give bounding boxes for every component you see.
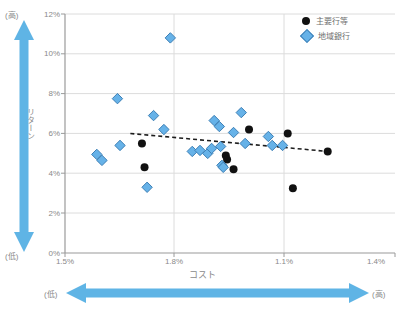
- data-point-circle: [141, 163, 149, 171]
- data-point-circle: [289, 184, 297, 192]
- data-point-circle: [245, 126, 253, 134]
- data-point-diamond: [240, 138, 250, 148]
- plot-area: [0, 0, 405, 309]
- data-point-diamond: [277, 140, 287, 150]
- data-point-diamond: [142, 182, 152, 192]
- data-point-diamond: [148, 110, 158, 120]
- data-point-circle: [230, 165, 238, 173]
- horizontal-direction-arrow: [66, 283, 369, 303]
- trendline: [130, 134, 327, 152]
- vertical-direction-arrow: [14, 20, 34, 252]
- x-axis-ticks: [65, 253, 395, 257]
- scatter-chart: (高) (低) (低) (高) リターン コスト 12% 10% 8% 6% 4…: [0, 0, 405, 309]
- data-point-diamond: [115, 140, 125, 150]
- data-point-circle: [324, 147, 332, 155]
- data-point-diamond: [236, 107, 246, 117]
- trendline-path: [130, 134, 327, 152]
- data-point-circle: [284, 130, 292, 138]
- data-point-diamond: [112, 93, 122, 103]
- data-point-circle: [138, 139, 146, 147]
- gridlines: [65, 14, 395, 213]
- data-markers: [92, 33, 332, 193]
- data-point-diamond: [228, 127, 238, 137]
